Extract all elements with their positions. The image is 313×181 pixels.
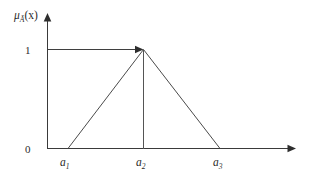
y-axis-group bbox=[44, 13, 52, 149]
triangular-membership-plot: μÃ(x) 1 0 a1 a2 a3 bbox=[0, 0, 313, 181]
y-tick-label-zero: 0 bbox=[25, 143, 31, 155]
level-one-arrow-group bbox=[48, 46, 144, 54]
y-tick-label-one: 1 bbox=[25, 44, 31, 56]
x-tick-label-a3: a3 bbox=[213, 156, 223, 171]
x-tick-label-a1: a1 bbox=[60, 156, 70, 171]
y-axis-arrowhead bbox=[44, 13, 52, 22]
level-one-arrowhead bbox=[135, 46, 144, 54]
x-tick-a3-subscript: 3 bbox=[218, 162, 223, 171]
x-tick-a2-subscript: 2 bbox=[142, 162, 146, 171]
y-axis-title-argument: (x) bbox=[24, 9, 38, 22]
membership-function-figure: μÃ(x) 1 0 a1 a2 a3 bbox=[0, 0, 313, 181]
x-axis-arrowhead bbox=[288, 145, 297, 153]
x-tick-a1-subscript: 1 bbox=[66, 162, 70, 171]
x-tick-label-a2: a2 bbox=[136, 156, 146, 171]
x-axis-group bbox=[48, 145, 297, 153]
y-axis-title: μÃ(x) bbox=[13, 9, 38, 24]
